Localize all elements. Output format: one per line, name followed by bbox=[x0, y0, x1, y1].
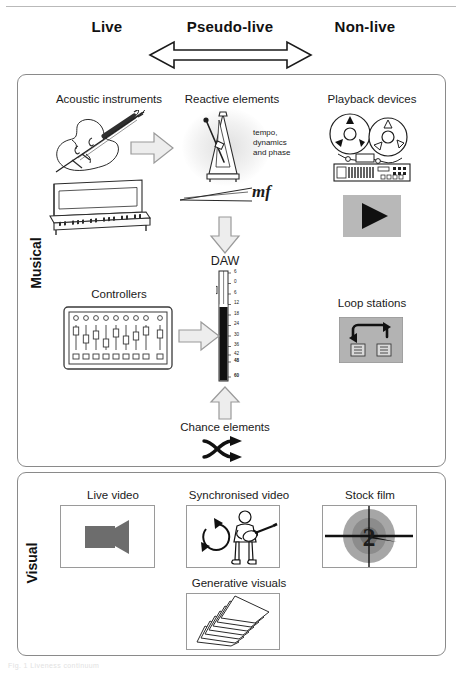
meter-label-3: 12 bbox=[234, 301, 239, 306]
meter-label-5: 24 bbox=[234, 322, 239, 327]
title-loop-stations: Loop stations bbox=[318, 297, 426, 309]
stacked-cards-icon bbox=[187, 594, 279, 649]
countdown-number: 2 bbox=[363, 523, 376, 552]
figure-canvas: Live Pseudo-live Non-live Musical Acoust… bbox=[0, 0, 463, 673]
meter-label-9: 48 bbox=[234, 359, 239, 364]
frame-stock-film: 2 bbox=[322, 505, 417, 568]
meter-label-8: 42 bbox=[234, 352, 239, 357]
meter-label-2: 6 bbox=[234, 291, 237, 296]
dynamic-marking-mf: mf bbox=[252, 182, 271, 202]
arrow-reactive-to-daw-icon bbox=[209, 216, 241, 254]
metronome-icon bbox=[200, 110, 246, 184]
note-line-1: tempo, bbox=[253, 128, 290, 138]
arrow-acoustic-to-reactive-icon bbox=[130, 131, 174, 165]
meter-label-10: 60 bbox=[234, 374, 239, 379]
arrow-chance-to-daw-icon bbox=[209, 386, 241, 420]
title-stock-film: Stock film bbox=[320, 489, 420, 501]
arrow-controllers-to-daw-icon bbox=[178, 320, 220, 352]
top-divider bbox=[6, 6, 456, 7]
frame-live-video bbox=[60, 505, 155, 568]
title-generative-visuals: Generative visuals bbox=[174, 577, 304, 589]
column-header-pseudo-live: Pseudo-live bbox=[160, 18, 300, 35]
title-synchronised-video: Synchronised video bbox=[174, 489, 304, 501]
title-chance-elements: Chance elements bbox=[170, 421, 280, 433]
guitarist-icon bbox=[232, 511, 277, 564]
video-camera-icon bbox=[61, 506, 154, 567]
meter-label-4: 18 bbox=[234, 312, 239, 317]
title-acoustic-instruments: Acoustic instruments bbox=[44, 93, 174, 105]
column-header-live: Live bbox=[52, 18, 162, 35]
loop-pedal-icon bbox=[339, 317, 403, 363]
band-label-musical: Musical bbox=[28, 223, 44, 303]
meter-label-1: 0 bbox=[234, 280, 237, 285]
play-button-icon[interactable] bbox=[343, 195, 401, 237]
meter-label-0: 6 bbox=[234, 270, 237, 275]
title-reactive-elements: Reactive elements bbox=[168, 93, 296, 105]
upright-piano-icon bbox=[46, 178, 158, 236]
shuffle-icon bbox=[200, 436, 252, 464]
midi-fader-controller-icon bbox=[62, 305, 174, 371]
title-live-video: Live video bbox=[58, 489, 168, 501]
frame-generative-visuals bbox=[186, 593, 280, 650]
note-line-3: and phase bbox=[253, 148, 290, 158]
double-headed-arrow-icon bbox=[148, 40, 313, 70]
note-line-2: dynamics bbox=[253, 138, 290, 148]
band-label-visual: Visual bbox=[24, 523, 40, 603]
meter-label-7: 36 bbox=[234, 343, 239, 348]
title-controllers: Controllers bbox=[64, 288, 174, 300]
column-header-non-live: Non-live bbox=[300, 18, 430, 35]
note-reactive-parameters: tempo, dynamics and phase bbox=[253, 128, 290, 158]
film-countdown-leader-icon: 2 bbox=[323, 506, 416, 567]
meter-label-6: 30 bbox=[234, 333, 239, 338]
frame-synchronised-video bbox=[186, 505, 280, 568]
title-daw: DAW bbox=[195, 254, 255, 268]
figure-caption: Fig. 1 Liveness continuum bbox=[8, 662, 99, 669]
reel-to-reel-tape-icon bbox=[326, 112, 418, 184]
title-playback-devices: Playback devices bbox=[312, 93, 432, 105]
